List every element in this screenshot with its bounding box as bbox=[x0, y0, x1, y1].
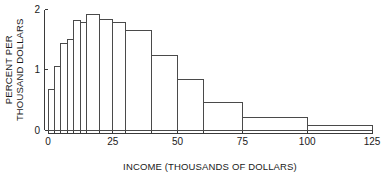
histogram-figure: 0120255075100125 INCOME (THOUSANDS OF DO… bbox=[0, 0, 385, 176]
x-tick-label: 125 bbox=[364, 136, 381, 147]
y-axis-title-line1: PERCENT PER bbox=[3, 35, 14, 104]
histogram-bars bbox=[48, 15, 372, 130]
x-tick-label: 100 bbox=[299, 136, 316, 147]
histogram-plot: 0120255075100125 INCOME (THOUSANDS OF DO… bbox=[0, 0, 385, 176]
x-tick-label: 25 bbox=[107, 136, 119, 147]
y-tick-label: 0 bbox=[34, 125, 40, 136]
y-axis-title-line2: THOUSAND DOLLARS bbox=[14, 18, 25, 121]
axes-group bbox=[45, 10, 373, 134]
histogram-outline bbox=[48, 15, 372, 130]
x-tick-label: 75 bbox=[237, 136, 249, 147]
y-tick-label: 1 bbox=[34, 64, 40, 75]
x-tick-label: 0 bbox=[45, 136, 51, 147]
x-tick-label: 50 bbox=[172, 136, 184, 147]
axis-titles-group: INCOME (THOUSANDS OF DOLLARS)PERCENT PER… bbox=[3, 18, 297, 172]
x-axis-title: INCOME (THOUSANDS OF DOLLARS) bbox=[123, 161, 297, 172]
y-tick-label: 2 bbox=[34, 4, 40, 15]
